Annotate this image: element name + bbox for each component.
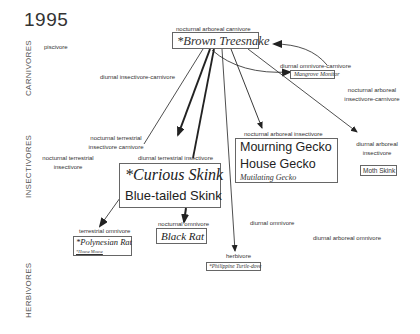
species-box-black-rat: Black Rat: [156, 228, 207, 244]
niche-diurnal-arboreal-omnivore: diurnal arboreal omnivore: [313, 234, 381, 243]
species-curious-skink: *Curious Skink: [125, 166, 223, 184]
niche-terrestrial-omnivore: terrestrial omnivore: [79, 227, 130, 236]
niche-line: insectivore: [354, 149, 400, 158]
species-box-skinks: *Curious Skink Blue-tailed Skink: [119, 163, 221, 208]
species-mourning-gecko: Mourning Gecko: [240, 140, 332, 154]
species-box-rodents: *Polynesian Rat *House Mouse: [73, 236, 132, 256]
species-box-moth-skink: Moth Skink: [360, 165, 397, 176]
species-box-philippine-turtle-dove: *Philippine Turtle-dove: [206, 262, 261, 271]
species-box-brown-treesnake: *Brown Treesnake: [172, 32, 259, 49]
species-house-mouse: *House Mouse: [76, 249, 103, 254]
trophic-label-herbivores: HERBIVORES: [24, 263, 33, 318]
niche-line: nocturnal arboreal: [340, 86, 404, 95]
species-blue-tailed-skink: Blue-tailed Skink: [125, 188, 222, 203]
trophic-label-insectivores: INSECTIVORES: [24, 135, 33, 198]
species-mangrove-monitor: Mangrove Monitor: [294, 71, 340, 77]
niche-line: insectivore carnivore: [84, 143, 148, 152]
species-moth-skink: Moth Skink: [363, 167, 395, 174]
edge-treesnake-nt-ins-carn: [144, 49, 203, 144]
trophic-label-carnivores: CARNIVORES: [24, 40, 33, 96]
niche-nocturnal-arboreal-insectivore-carnivore: nocturnal arboreal insectivore-carnivore: [340, 86, 404, 103]
niche-diurnal-arboreal-insectivore: diurnal arboreal insectivore: [354, 140, 400, 157]
niche-nocturnal-terrestrial-insectivore-carnivore: nocturnal terrestrial insectivore carniv…: [84, 134, 148, 151]
edge-treesnake-turtle-dove: [222, 49, 235, 251]
species-mutilating-gecko: Mutilating Gecko: [240, 173, 296, 182]
edge-skink-polynesian-rat: [100, 198, 120, 226]
niche-piscivore: piscivore: [44, 43, 68, 52]
edge-treesnake-monitor: [212, 50, 290, 72]
species-brown-treesnake: *Brown Treesnake: [177, 34, 269, 49]
diagram-title: 1995: [24, 9, 68, 31]
niche-diurnal-insectivore-carnivore: diurnal insectivore-carnivore: [100, 73, 175, 82]
niche-line: diurnal arboreal: [354, 140, 400, 149]
species-polynesian-rat: *Polynesian Rat: [76, 237, 132, 247]
species-house-gecko: House Gecko: [240, 157, 316, 171]
species-box-geckos: Mourning Gecko House Gecko Mutilating Ge…: [235, 138, 338, 183]
species-black-rat: Black Rat: [161, 230, 204, 242]
niche-line: insectivore-carnivore: [340, 95, 404, 104]
niche-diurnal-omnivore: diurnal omnivore: [250, 219, 294, 228]
edge-treesnake-gecko: [231, 49, 262, 128]
niche-herbivore: herbivore: [226, 252, 251, 261]
niche-line: insectivore: [38, 163, 98, 172]
niche-line: nocturnal terrestrial: [84, 134, 148, 143]
species-box-mangrove-monitor: Mangrove Monitor: [290, 70, 335, 79]
niche-nocturnal-terrestrial-insectivore: nocturnal terrestrial insectivore: [38, 154, 98, 171]
niche-line: nocturnal terrestrial: [38, 154, 98, 163]
species-philippine-turtle-dove: *Philippine Turtle-dove: [209, 263, 261, 269]
niche-diurnal-terrestrial-insectivore: diurnal terrestrial insectivore: [138, 154, 213, 163]
